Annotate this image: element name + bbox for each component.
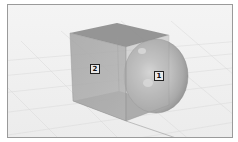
object-label-1[interactable]: 1 xyxy=(154,71,164,81)
scene-canvas[interactable] xyxy=(8,5,233,138)
3d-viewport[interactable]: 2 1 xyxy=(7,4,233,138)
object-label-2[interactable]: 2 xyxy=(90,64,100,74)
